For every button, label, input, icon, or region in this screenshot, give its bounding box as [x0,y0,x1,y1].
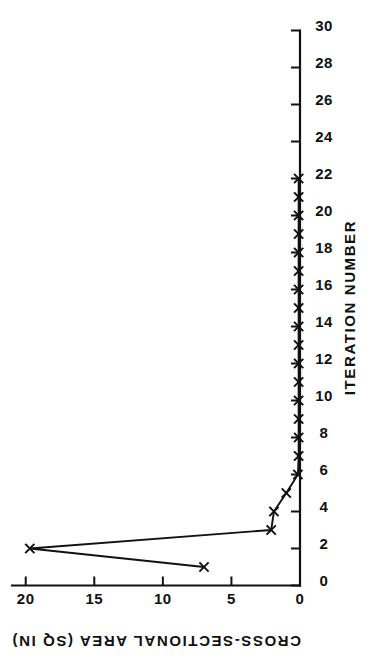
x-tick-label: 28 [315,53,333,70]
x-axis-title: ITERATION NUMBER [341,219,358,394]
x-tick-label: 26 [315,90,333,107]
x-tick-label: 12 [315,349,333,366]
x-tick-label: 4 [320,497,329,514]
x-tick-label: 10 [315,386,333,403]
x-tick-label: 20 [315,201,333,218]
axes-group [12,30,300,585]
y-axis-ticks: 05101520 [17,576,305,606]
y-tick-label: 5 [227,589,236,606]
x-tick-label: 2 [320,534,329,551]
y-tick-label: 0 [296,589,305,606]
x-tick-label: 16 [315,275,333,292]
x-tick-label: 30 [315,16,333,33]
line-chart-plot: 024681012141618202224262830 05101520 ITE… [0,0,378,657]
y-tick-label: 15 [85,589,103,606]
x-tick-label: 0 [320,571,329,588]
y-tick-label: 20 [17,589,35,606]
y-tick-label: 10 [154,589,172,606]
rotated-plot-container: 024681012141618202224262830 05101520 ITE… [0,0,378,657]
x-tick-label: 6 [320,460,329,477]
x-tick-label: 8 [320,423,329,440]
y-axis-title: CROSS-SECTIONAL AREA (SQ IN) [11,632,301,649]
x-tick-label: 18 [315,238,333,255]
series-line-cross-sectional-area [30,178,299,567]
series-markers [25,173,303,571]
x-axis-ticks: 024681012141618202224262830 [291,16,333,588]
x-tick-label: 22 [315,164,333,181]
x-tick-label: 14 [315,312,333,329]
x-tick-label: 24 [315,127,333,144]
chart-figure: 024681012141618202224262830 05101520 ITE… [0,0,378,657]
